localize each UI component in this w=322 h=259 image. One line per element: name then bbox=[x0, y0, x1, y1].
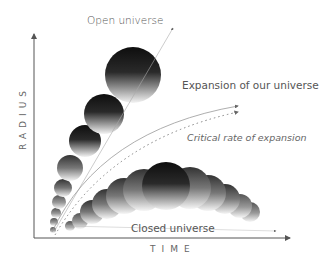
closed-universe-bubbles bbox=[65, 162, 276, 231]
open-universe-label: Open universe bbox=[87, 14, 164, 26]
y-axis-label: RADIUS bbox=[18, 86, 28, 150]
closed-universe-label: Closed universe bbox=[131, 222, 215, 234]
critical-rate-label: Critical rate of expansion bbox=[187, 132, 307, 143]
universe-expansion-diagram bbox=[0, 0, 322, 259]
x-axis-label: TIME bbox=[150, 244, 196, 254]
expansion-label: Expansion of our universe bbox=[182, 79, 319, 91]
